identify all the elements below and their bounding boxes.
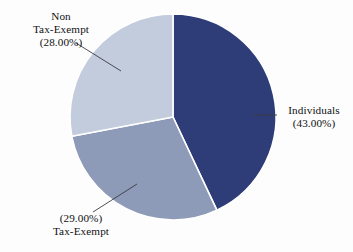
pie-label-non-tax-exempt-line1: Non — [9, 10, 113, 23]
pie-label-non-tax-exempt-value: (28.00%) — [9, 36, 113, 49]
cropped-title-artifact — [150, 0, 320, 4]
pie-label-individuals-value: (43.00%) — [276, 117, 352, 130]
pie-label-individuals-line1: Individuals — [276, 104, 352, 117]
pie-label-tax-exempt-value: (29.00%) — [25, 212, 137, 225]
pie-label-individuals: Individuals (43.00%) — [276, 104, 352, 130]
pie-label-tax-exempt: (29.00%) Tax-Exempt — [25, 212, 137, 238]
pie-label-non-tax-exempt-line2: Tax-Exempt — [9, 23, 113, 36]
pie-label-tax-exempt-line2: Tax-Exempt — [25, 225, 137, 238]
pie-chart-figure: Non Tax-Exempt (28.00%) Individuals (43.… — [0, 0, 353, 252]
pie-label-non-tax-exempt: Non Tax-Exempt (28.00%) — [9, 10, 113, 50]
